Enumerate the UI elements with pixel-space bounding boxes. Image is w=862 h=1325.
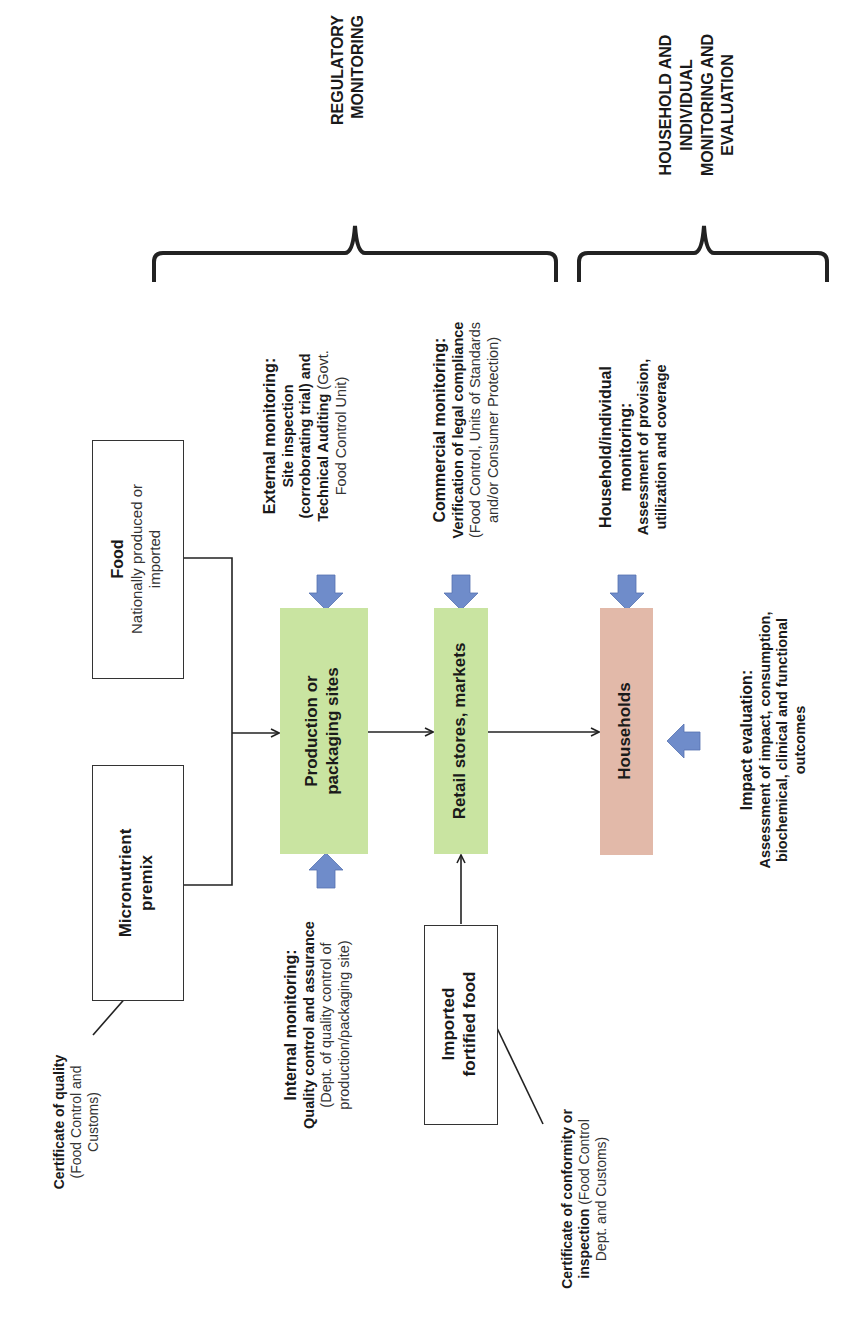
commercial-down-block-arrow	[444, 575, 478, 610]
internal-line2: (Dept. of quality control of	[318, 900, 336, 1150]
cert-conformity-leader	[497, 1028, 543, 1124]
household-heading-line1: HOUSEHOLD AND	[656, 10, 677, 200]
commercial-monitoring-note: Commercial monitoring: Verification of l…	[430, 285, 504, 575]
regulatory-bracket	[154, 226, 556, 282]
premix-line1: Micronutrient	[116, 783, 137, 983]
external-title: External monitoring:	[260, 316, 280, 556]
cert-conformity-title2-bold: inspection	[576, 1209, 592, 1279]
impact-evaluation-note: Impact evaluation: Assessment of impact,…	[737, 590, 811, 890]
households-label: Households	[615, 651, 637, 811]
premix-label: Micronutrient premix	[116, 783, 160, 983]
internal-monitoring-note: Internal monitoring: Quality control and…	[281, 900, 355, 1150]
cert-quality-line2: Customs)	[85, 1047, 102, 1197]
cert-quality-title: Certificate of quality	[51, 1047, 68, 1197]
external-down-block-arrow	[309, 575, 343, 610]
external-monitoring-note: External monitoring: Site inspection (co…	[260, 316, 360, 556]
food-label: Food Nationally produced or imported	[108, 449, 168, 669]
commercial-line2: (Food Control, Units of Standards	[467, 285, 485, 575]
commercial-line3: and/or Consumer Protection)	[485, 285, 503, 575]
commercial-line1: Verification of legal compliance	[450, 285, 468, 575]
cert-quality-note: Certificate of quality (Food Control and…	[51, 1047, 107, 1197]
household-monitoring-title2: monitoring:	[616, 337, 636, 557]
imported-line1: Imported	[439, 944, 460, 1104]
external-line2: (corroborating trial) and	[297, 316, 315, 556]
external-line3-bold: Technical Auditing	[315, 394, 331, 522]
imported-label: Imported fortified food	[439, 944, 483, 1104]
production-line1: Production or	[302, 631, 323, 831]
cert-conformity-title2-rest: (Food Control	[576, 1119, 592, 1208]
household-down-block-arrow	[610, 575, 644, 610]
household-monitoring-note: Household/individual monitoring: Assessm…	[596, 337, 670, 557]
internal-title: Internal monitoring:	[281, 900, 301, 1150]
food-line1: Nationally produced or	[128, 449, 146, 669]
household-heading-line2: INDIVIDUAL	[677, 10, 698, 200]
impact-line3: outcomes	[792, 590, 810, 890]
regulatory-line1: REGULATORY	[328, 15, 348, 215]
production-label: Production or packaging sites	[302, 631, 346, 831]
cert-conformity-title1: Certificate of conformity or	[559, 1099, 576, 1299]
external-line3-rest: (Govt.	[315, 350, 331, 394]
household-heading-line3: MONITORING AND	[698, 10, 719, 200]
internal-line1: Quality control and assurance	[301, 900, 319, 1150]
food-line2: imported	[146, 449, 164, 669]
internal-up-block-arrow	[309, 853, 343, 888]
household-monitoring-line2: utilization and coverage	[653, 337, 671, 557]
commercial-title: Commercial monitoring:	[430, 285, 450, 575]
impact-title: Impact evaluation:	[737, 590, 757, 890]
imported-line2: fortified food	[460, 944, 481, 1104]
regulatory-line2: MONITORING	[348, 15, 368, 215]
households-text: Households	[615, 651, 636, 811]
household-heading-line4: EVALUATION	[718, 10, 739, 200]
retail-text: Retail stores, markets	[450, 621, 471, 841]
household-heading: HOUSEHOLD AND INDIVIDUAL MONITORING AND …	[656, 10, 750, 200]
food-title: Food	[108, 449, 128, 669]
impact-left-block-arrow	[667, 724, 700, 758]
cert-conformity-line3: Dept. and Customs)	[593, 1099, 610, 1299]
household-monitoring-title1: Household/individual	[596, 337, 616, 557]
impact-line2: biochemical, clinical and functional	[774, 590, 792, 890]
internal-line3: production/packaging site)	[336, 900, 354, 1150]
cert-conformity-note: Certificate of conformity or inspection …	[559, 1099, 615, 1299]
household-monitoring-line1: Assessment of provision,	[635, 337, 653, 557]
regulatory-heading: REGULATORY MONITORING	[328, 15, 376, 215]
external-line4: Food Control Unit)	[333, 316, 351, 556]
production-line2: packaging sites	[323, 631, 344, 831]
premix-line2: premix	[137, 783, 158, 983]
food-connector	[183, 558, 232, 885]
household-bracket	[579, 226, 827, 282]
cert-quality-line1: (Food Control and	[68, 1047, 85, 1197]
external-line1: Site inspection	[280, 316, 298, 556]
retail-label: Retail stores, markets	[450, 621, 472, 841]
impact-line1: Assessment of impact, consumption,	[757, 590, 775, 890]
